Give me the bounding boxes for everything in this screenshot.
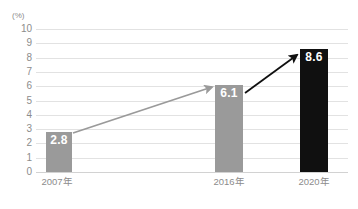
- bar-value-2020: 8.6: [300, 51, 328, 64]
- x-label-2007: 2007年: [26, 177, 88, 187]
- bar-2007[interactable]: 2.8: [46, 132, 72, 172]
- gridline-0-baseline: [36, 172, 348, 173]
- y-tick-9: 9: [8, 38, 32, 48]
- y-tick-7: 7: [8, 67, 32, 77]
- y-tick-3: 3: [8, 124, 32, 134]
- y-tick-5: 5: [8, 96, 32, 106]
- bar-chart: (%) 10 9 8 7 6 5 4 3 2 1 0 2.8 6.1: [0, 0, 358, 209]
- y-tick-1: 1: [8, 153, 32, 163]
- y-tick-8: 8: [8, 53, 32, 63]
- y-tick-6: 6: [8, 81, 32, 91]
- bar-2016[interactable]: 6.1: [215, 85, 243, 172]
- x-label-2016: 2016年: [198, 177, 260, 187]
- y-axis-unit-label: (%): [12, 12, 24, 20]
- bar-value-2016: 6.1: [215, 87, 243, 100]
- plot-area: 2.8 6.1 8.6: [36, 29, 348, 172]
- y-tick-10: 10: [8, 24, 32, 34]
- gridline-9: [36, 43, 348, 44]
- x-label-2020: 2020年: [283, 177, 345, 187]
- y-tick-0: 0: [8, 167, 32, 177]
- gridline-10: [36, 29, 348, 30]
- y-tick-2: 2: [8, 138, 32, 148]
- y-tick-4: 4: [8, 110, 32, 120]
- bar-2020[interactable]: 8.6: [300, 49, 328, 172]
- y-axis-tick-labels: 10 9 8 7 6 5 4 3 2 1 0: [6, 29, 32, 172]
- bar-value-2007: 2.8: [46, 134, 72, 147]
